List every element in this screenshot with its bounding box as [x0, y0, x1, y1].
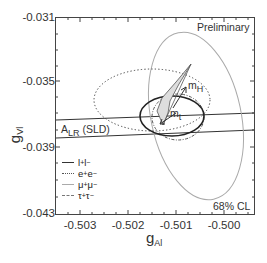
y-tick-label: -0.039	[22, 142, 55, 154]
alr-sub: LR	[68, 128, 80, 138]
alr-band-upper	[56, 113, 254, 120]
x-tick-label: -0.502	[112, 220, 145, 232]
x-tick-label: -0.503	[64, 220, 97, 232]
y-tick-label: -0.031	[22, 12, 55, 24]
mt-label: mt	[170, 108, 181, 122]
legend-sup: −	[93, 170, 97, 177]
y-tick-label: -0.043	[22, 208, 55, 220]
mh-arrow-head-icon	[181, 87, 186, 93]
legend-sup: −	[90, 192, 94, 199]
mt-sub: t	[179, 112, 182, 122]
y-axis-title-main: g	[6, 135, 23, 143]
legend-item-ll: l+l−	[62, 157, 90, 168]
mh-main: m	[188, 79, 197, 91]
mh-sub: H	[197, 84, 204, 94]
mt-main: m	[170, 107, 179, 119]
y-axis-title-sub: Vl	[15, 127, 25, 135]
x-tick-label: -0.500	[208, 220, 241, 232]
x-axis-title-sub: Al	[154, 238, 162, 248]
y-axis-title: gVl	[7, 127, 25, 143]
x-tick-label: -0.501	[160, 220, 193, 232]
mh-label: mH	[188, 80, 203, 94]
legend-sup: −	[93, 181, 97, 188]
legend-item-mumu: μ+μ−	[62, 179, 97, 190]
y-tick-label: -0.035	[22, 76, 55, 88]
alr-main: A	[61, 123, 68, 135]
mumu-contour	[134, 24, 257, 209]
legend-swatch-dashdot-icon	[62, 195, 74, 196]
legend-swatch-solid-icon	[62, 162, 74, 163]
confidence-level-label: 68% CL	[213, 201, 250, 212]
alr-sld-label: ALR (SLD)	[61, 124, 110, 138]
x-axis-title: gAl	[146, 230, 162, 248]
alr-rest: (SLD)	[80, 123, 110, 135]
legend-item-tautau: τ+τ−	[62, 190, 94, 201]
legend-item-ee: e+e−	[62, 168, 97, 179]
legend-sup: −	[86, 159, 90, 166]
preliminary-label: Preliminary	[197, 22, 250, 33]
legend-swatch-dotted-icon	[62, 173, 74, 174]
legend-swatch-gray-icon	[62, 184, 74, 185]
